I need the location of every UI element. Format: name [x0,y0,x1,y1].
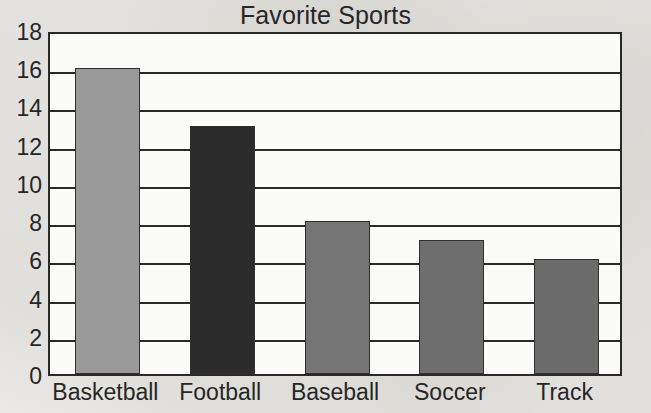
y-tick-label-10: 10 [0,173,42,196]
y-tick-label-4: 4 [0,288,42,311]
plot-area [48,32,622,376]
x-tick-label-basketball: Basketball [52,380,158,404]
bar-football [190,126,255,374]
bar-baseball [305,221,370,374]
bar-soccer [419,240,484,374]
x-tick-label-track: Track [536,380,593,404]
y-tick-label-2: 2 [0,326,42,349]
x-tick-label-baseball: Baseball [291,380,379,404]
y-tick-label-0: 0 [0,365,42,388]
bars-layer [50,34,620,374]
x-tick-label-soccer: Soccer [414,380,486,404]
y-tick-label-18: 18 [0,21,42,44]
x-axis-category-labels: BasketballFootballBaseballSoccerTrack [48,380,622,412]
bar-basketball [75,68,140,374]
bar-chart-figure: Favorite Sports 024681012141618 Basketba… [0,0,651,413]
x-tick-label-football: Football [179,380,261,404]
y-tick-label-14: 14 [0,97,42,120]
y-tick-label-6: 6 [0,250,42,273]
bar-track [534,259,599,374]
y-tick-label-16: 16 [0,59,42,82]
chart-title: Favorite Sports [0,1,651,30]
y-tick-label-12: 12 [0,135,42,158]
y-axis-tick-labels: 024681012141618 [0,32,42,376]
y-tick-label-8: 8 [0,212,42,235]
